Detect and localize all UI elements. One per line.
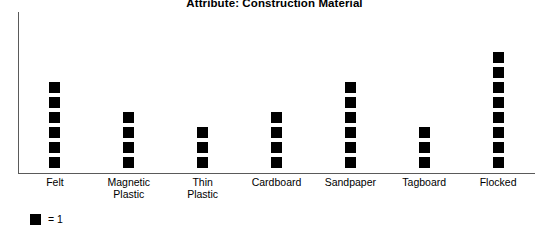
unit-square-icon	[493, 157, 504, 168]
unit-square-icon	[345, 157, 356, 168]
unit-square-icon	[49, 82, 60, 93]
category-axis-labels: FeltMagneticPlasticThinPlasticCardboardS…	[18, 177, 535, 200]
unit-square-icon	[345, 112, 356, 123]
pictograph-chart: Attribute: Construction Material FeltMag…	[0, 0, 549, 236]
unit-square-icon	[197, 142, 208, 153]
unit-square-icon	[419, 142, 430, 153]
unit-square-icon	[49, 157, 60, 168]
unit-square-icon	[49, 142, 60, 153]
category-label-line: Flocked	[480, 176, 517, 188]
unit-square-icon	[49, 97, 60, 108]
unit-square-icon	[345, 82, 356, 93]
unit-square-icon	[493, 52, 504, 63]
category-label-line: Sandpaper	[325, 176, 376, 188]
chart-title: Attribute: Construction Material	[0, 0, 549, 10]
unit-square-icon	[123, 142, 134, 153]
unit-square-icon	[493, 127, 504, 138]
unit-square-icon	[493, 82, 504, 93]
pictograph-column	[92, 12, 166, 173]
category-label: ThinPlastic	[166, 177, 240, 200]
pictograph-column	[18, 12, 92, 173]
category-label-line: Felt	[46, 176, 64, 188]
category-label: Flocked	[461, 177, 535, 200]
pictograph-column	[166, 12, 240, 173]
unit-square-icon	[271, 112, 282, 123]
category-label-line: Plastic	[92, 189, 166, 201]
pictograph-column	[387, 12, 461, 173]
category-label-line: Plastic	[166, 189, 240, 201]
pictograph-column	[461, 12, 535, 173]
category-label-line: Thin	[192, 176, 212, 188]
unit-square-icon	[345, 97, 356, 108]
unit-square-icon	[49, 112, 60, 123]
category-label-line: Tagboard	[402, 176, 446, 188]
unit-square-icon	[493, 67, 504, 78]
pictograph-columns	[18, 12, 535, 173]
unit-square-icon	[271, 142, 282, 153]
unit-square-icon	[345, 127, 356, 138]
unit-square-icon	[197, 157, 208, 168]
category-label-line: Cardboard	[252, 176, 302, 188]
unit-square-icon	[345, 142, 356, 153]
pictograph-column	[240, 12, 314, 173]
unit-square-icon	[49, 127, 60, 138]
unit-square-icon	[271, 157, 282, 168]
legend: = 1	[30, 214, 63, 225]
unit-square-icon	[197, 127, 208, 138]
unit-square-icon	[123, 112, 134, 123]
unit-square-icon	[493, 97, 504, 108]
category-label: Tagboard	[387, 177, 461, 200]
unit-square-icon	[419, 157, 430, 168]
unit-square-icon	[123, 127, 134, 138]
category-label: MagneticPlastic	[92, 177, 166, 200]
category-label: Felt	[18, 177, 92, 200]
category-label: Sandpaper	[313, 177, 387, 200]
unit-square-icon	[493, 112, 504, 123]
unit-square-icon	[419, 127, 430, 138]
category-label-line: Magnetic	[107, 176, 150, 188]
legend-square-icon	[30, 214, 41, 225]
unit-square-icon	[493, 142, 504, 153]
pictograph-column	[313, 12, 387, 173]
unit-square-icon	[271, 127, 282, 138]
legend-label: = 1	[48, 214, 63, 225]
category-label: Cardboard	[240, 177, 314, 200]
unit-square-icon	[123, 157, 134, 168]
